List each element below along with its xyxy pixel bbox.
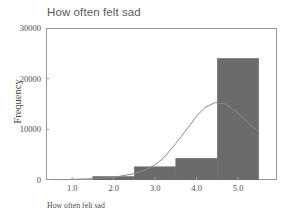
plot-area xyxy=(46,28,277,180)
y-tick-label: 30000 xyxy=(20,23,41,33)
histogram-svg xyxy=(46,28,277,180)
histogram-bar xyxy=(176,158,217,180)
y-tick-label: 10000 xyxy=(20,124,41,134)
x-tick-label: 3.0 xyxy=(150,183,161,193)
y-axis-title: Frequency xyxy=(12,57,23,147)
y-tick-label: 20000 xyxy=(20,74,41,84)
y-tick-label: 0 xyxy=(37,175,41,185)
x-tick-label: 4.0 xyxy=(191,183,202,193)
chart-title: How often felt sad xyxy=(47,6,141,18)
x-axis-title: How often felt sad xyxy=(47,201,105,210)
x-tick-label: 5.0 xyxy=(233,183,244,193)
histogram-figure: How often felt sad 30000 20000 10000 0 F… xyxy=(0,0,287,219)
x-tick-label: 2.0 xyxy=(108,183,119,193)
x-tick-label: 1.0 xyxy=(67,183,78,193)
histogram-bar xyxy=(217,58,258,180)
